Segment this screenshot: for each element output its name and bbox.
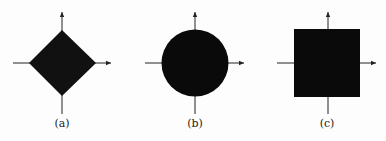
circle-shape [162, 30, 229, 97]
panel-a-diamond [13, 12, 111, 114]
figure: (a) (b) (c) [0, 0, 386, 141]
panel-c-square [277, 12, 376, 114]
diamond-shape [29, 30, 96, 96]
panel-b-label: (b) [175, 117, 215, 130]
panel-c-label: (c) [307, 117, 347, 130]
square-shape [294, 29, 360, 97]
panel-b-circle [145, 12, 244, 114]
panel-a-label: (a) [42, 117, 82, 130]
